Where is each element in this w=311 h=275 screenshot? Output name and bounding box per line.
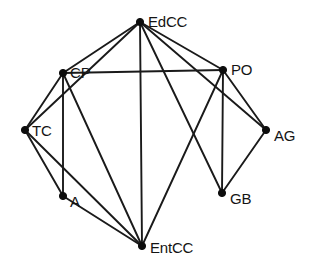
graph-edge [223,70,266,130]
graph-node-cp [59,69,66,76]
graph-node-ag [262,126,269,133]
edge-layer [25,22,266,246]
graph-edge [140,22,142,246]
graph-node-gb [218,189,225,196]
node-label-tc: TC [32,123,52,138]
graph-edge [140,22,222,193]
node-label-edcc: EdCC [148,14,187,29]
graph-edge [25,130,142,246]
node-label-cp: CP [70,65,90,80]
node-label-a: A [70,194,80,209]
graph-node-tc [21,126,28,133]
graph-node-entcc [138,242,145,249]
node-label-entcc: EntCC [150,240,193,255]
node-label-gb: GB [230,191,251,206]
node-label-po: PO [231,62,252,77]
graph-node-a [59,192,66,199]
network-graph-figure: EdCCCPPOTCAGAGBEntCC [0,0,311,275]
graph-edge [142,70,223,246]
graph-edge [222,130,266,193]
graph-edge [222,70,223,193]
graph-node-po [219,66,226,73]
graph-node-edcc [136,18,143,25]
node-layer [21,18,269,249]
node-label-ag: AG [274,128,295,143]
